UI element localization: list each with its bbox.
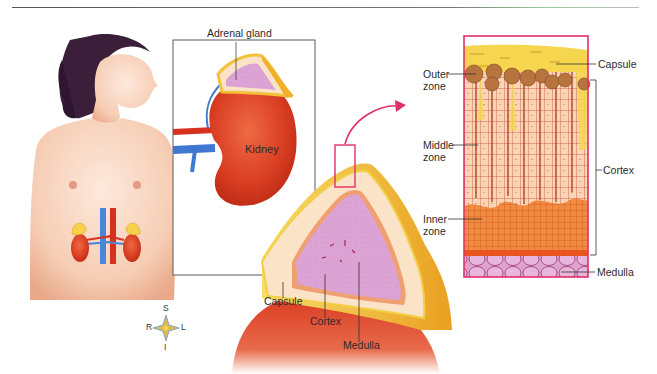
label-section-cortex: Cortex (310, 315, 341, 327)
label-section-capsule: Capsule (264, 295, 303, 307)
label-outer-zone-line2: zone (423, 80, 446, 92)
label-middle-zone-line2: zone (423, 151, 446, 163)
label-section-medulla: Medulla (343, 339, 380, 351)
compass-right: R (146, 322, 152, 332)
label-middle-zone-line1: Middle (423, 139, 454, 151)
label-inner-zone-line2: zone (423, 225, 446, 237)
label-outer-zone-line1: Outer (423, 68, 449, 80)
label-kidney: Kidney (245, 143, 279, 155)
label-histo-cortex: Cortex (603, 164, 634, 176)
label-histo-capsule: Capsule (598, 58, 637, 70)
histology-panel (448, 36, 602, 277)
compass-icon (153, 315, 179, 341)
compass-inferior: I (164, 342, 166, 352)
female-figure (30, 34, 175, 300)
label-inner-zone-line1: Inner (423, 213, 447, 225)
label-adrenal-gland: Adrenal gland (207, 27, 272, 39)
compass-superior: S (163, 303, 169, 313)
label-histo-medulla: Medulla (597, 266, 634, 278)
compass-left: L (181, 322, 186, 332)
